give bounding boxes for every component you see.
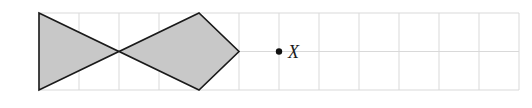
point-x-dot [276, 48, 282, 54]
point-x-label: X [287, 42, 300, 62]
grid-figure: X [0, 0, 532, 108]
bowtie-shape [39, 13, 239, 90]
